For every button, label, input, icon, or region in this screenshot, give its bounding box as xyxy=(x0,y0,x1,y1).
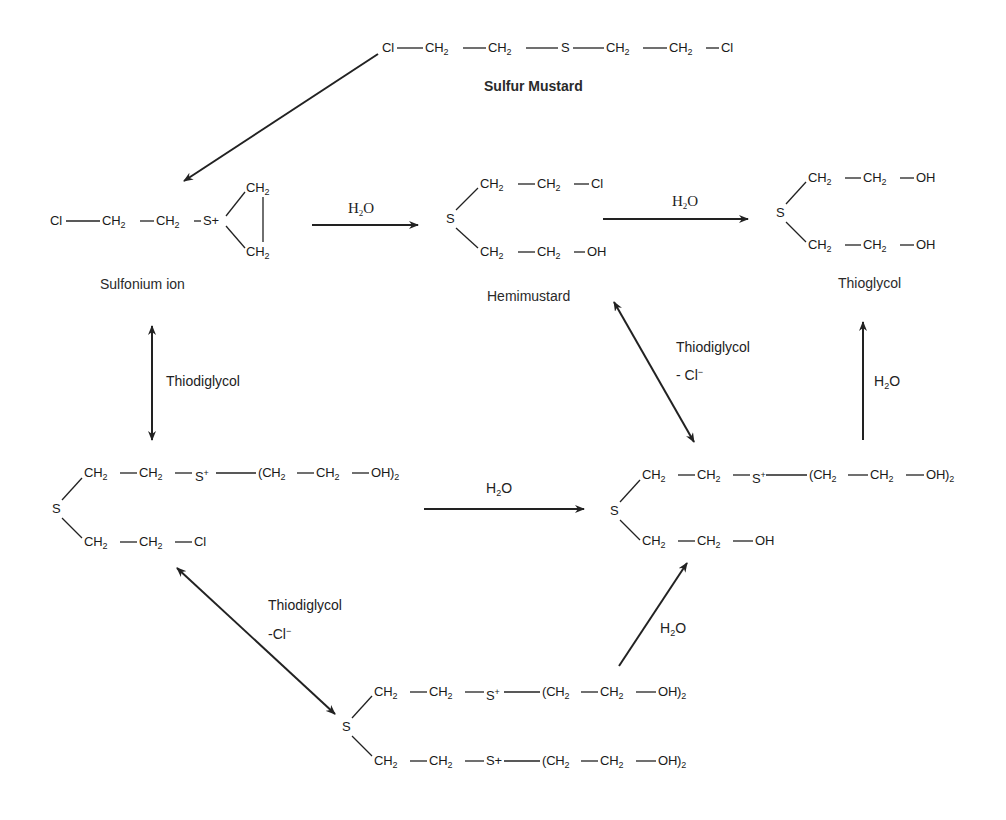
reaction-arrows xyxy=(0,0,1006,820)
atom-ch2: CH2 xyxy=(537,176,560,196)
reagent-water: H2O xyxy=(660,620,686,638)
atom-ch2: CH2 xyxy=(139,534,162,554)
atom-cl: Cl xyxy=(382,40,394,56)
group-ch2: (CH2 xyxy=(542,753,569,773)
atom-s: S xyxy=(561,40,569,56)
atom-ch2: CH2 xyxy=(316,465,339,485)
atom-ch2: CH2 xyxy=(863,237,886,257)
atom-ch2: CH2 xyxy=(606,40,629,60)
atom-ch2: CH2 xyxy=(600,684,623,704)
arrow-mustard-to-sulfonium xyxy=(184,54,378,181)
atom-oh: OH xyxy=(916,237,935,253)
reagent-water: H2O xyxy=(672,193,698,211)
reagent-thiodiglycol: Thiodiglycol xyxy=(676,339,750,355)
atom-s-plus: S+ xyxy=(752,467,766,487)
atom-cl: Cl xyxy=(591,176,603,192)
atom-s: S xyxy=(52,501,60,517)
atom-ch2: CH2 xyxy=(600,753,623,773)
atom-oh: OH xyxy=(916,170,935,186)
atom-ch2: CH2 xyxy=(374,753,397,773)
atom-ch2: CH2 xyxy=(863,170,886,190)
atom-ch2: CH2 xyxy=(246,244,269,264)
atom-ch2: CH2 xyxy=(156,213,179,233)
reagent-water: H2O xyxy=(874,373,900,391)
atom-oh: OH xyxy=(587,244,606,260)
reagent-water: H2O xyxy=(486,480,512,498)
compound-name: Sulfonium ion xyxy=(100,276,185,292)
atom-ch2: CH2 xyxy=(870,467,893,487)
atom-ch2: CH2 xyxy=(84,465,107,485)
atom-ch2: CH2 xyxy=(669,40,692,60)
atom-ch2: CH2 xyxy=(642,533,665,553)
reagent-chloride-loss: -Cl− xyxy=(268,626,291,642)
atom-s: S xyxy=(776,205,784,221)
atom-ch2: CH2 xyxy=(697,467,720,487)
reagent-water: H2O xyxy=(348,200,374,218)
reagent-thiodiglycol: Thiodiglycol xyxy=(166,373,240,389)
atom-ch2: CH2 xyxy=(102,213,125,233)
atom-ch2: CH2 xyxy=(697,533,720,553)
atom-ch2: CH2 xyxy=(480,244,503,264)
atom-ch2: CH2 xyxy=(488,40,511,60)
atom-s: S xyxy=(610,503,618,519)
atom-ch2: CH2 xyxy=(139,465,162,485)
group-ch2: (CH2 xyxy=(258,465,285,485)
atom-cl: Cl xyxy=(194,534,206,550)
reagent-thiodiglycol: Thiodiglycol xyxy=(268,597,342,613)
group-oh2: OH)2 xyxy=(658,753,686,773)
group-oh2: OH)2 xyxy=(926,467,954,487)
group-oh2: OH)2 xyxy=(658,684,686,704)
atom-oh: OH xyxy=(755,533,774,549)
compound-name: Thioglycol xyxy=(838,275,901,291)
atom-ch2: CH2 xyxy=(84,534,107,554)
atom-s-plus: S+ xyxy=(203,213,219,229)
atom-ch2: CH2 xyxy=(374,684,397,704)
atom-ch2: CH2 xyxy=(480,176,503,196)
hemimustard-bonds xyxy=(456,184,589,252)
group-oh2: OH)2 xyxy=(371,465,399,485)
atom-s-plus: S+ xyxy=(195,465,209,485)
atom-s-plus: S+ xyxy=(486,753,502,769)
atom-ch2: CH2 xyxy=(808,170,831,190)
group-ch2: (CH2 xyxy=(542,684,569,704)
atom-cl: Cl xyxy=(50,213,62,229)
reagent-chloride-loss: - Cl− xyxy=(676,367,703,383)
atom-ch2: CH2 xyxy=(808,237,831,257)
atom-ch2: CH2 xyxy=(642,467,665,487)
atom-cl: Cl xyxy=(721,40,733,56)
compound-name: Sulfur Mustard xyxy=(484,78,583,94)
atom-ch2: CH2 xyxy=(429,753,452,773)
atom-ch2: CH2 xyxy=(429,684,452,704)
arrow-bottom-to-right-intermediate xyxy=(619,563,687,666)
atom-s: S xyxy=(446,211,454,227)
atom-s: S xyxy=(342,719,350,735)
atom-s-plus: S+ xyxy=(486,684,500,704)
atom-ch2: CH2 xyxy=(537,244,560,264)
atom-ch2: CH2 xyxy=(425,40,448,60)
arrow-left-to-bottom-intermediate xyxy=(177,568,335,714)
thioglycol-bonds xyxy=(786,178,914,245)
group-ch2: (CH2 xyxy=(809,467,836,487)
atom-ch2: CH2 xyxy=(246,180,269,200)
compound-name: Hemimustard xyxy=(487,288,570,304)
